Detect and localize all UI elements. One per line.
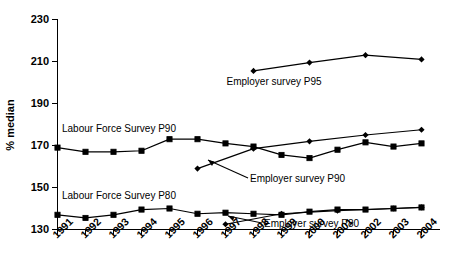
y-tick-label: 150 [31,181,49,193]
series-marker-square [195,211,200,216]
annotation-label: Employer survey P80 [264,218,359,229]
line-chart-svg: 230 210 190 170 150 130 % median [0,0,454,273]
series-marker-square [223,141,228,146]
annotation-lfs-p90: Labour Force Survey P90 [62,123,176,134]
y-tick-label: 210 [31,55,49,67]
series-marker-square [111,149,116,154]
y-axis-title: % median [4,99,16,151]
series-marker-square [419,141,424,146]
y-tick-label: 130 [31,223,49,235]
series-marker-square [111,212,116,217]
series-marker-square [363,140,368,145]
annotation-lfs-p80: Labour Force Survey P80 [62,190,176,201]
series-marker-square [55,212,60,217]
series-marker-square [391,144,396,149]
series-marker-square [167,137,172,142]
y-tick-label: 230 [31,13,49,25]
series-marker-square [83,215,88,220]
annotation-label: Employer survey P95 [226,76,321,87]
annotation-label: Employer survey P90 [250,173,345,184]
series-marker-square [139,148,144,153]
series-marker-square [139,207,144,212]
annotation-employer-p95: Employer survey P95 [226,76,321,87]
series-marker-square [83,149,88,154]
y-tick-label: 170 [31,139,49,151]
series-marker-square [307,156,312,161]
series-marker-square [251,211,256,216]
chart-container: 230 210 190 170 150 130 % median [0,0,454,273]
series-marker-square [335,147,340,152]
series-marker-square [55,145,60,150]
y-tick-label: 190 [31,97,49,109]
series-marker-square [167,206,172,211]
series-marker-square [279,152,284,157]
series-marker-square [195,137,200,142]
series-marker-square [223,210,228,215]
annotation-label: Labour Force Survey P80 [62,190,176,201]
annotation-label: Labour Force Survey P90 [62,123,176,134]
